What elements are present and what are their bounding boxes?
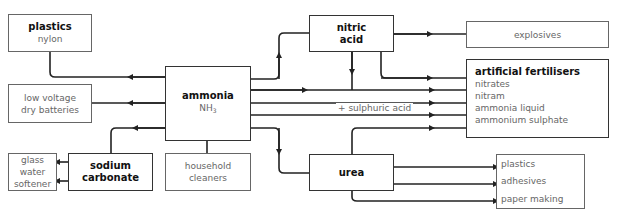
formula-main: NH	[199, 103, 213, 113]
urea-use-item: paper making	[501, 193, 563, 205]
nitric-label: nitric	[337, 22, 367, 34]
formula-subscript: 3	[213, 107, 217, 114]
ammonia-box: ammonia NH3	[165, 66, 251, 141]
urea-use-item: adhesives	[501, 175, 546, 187]
household-label: household	[185, 160, 232, 172]
fertiliser-item: ammonium sulphate	[475, 114, 568, 126]
nylon-label: nylon	[38, 33, 63, 45]
fertiliser-item: nitrates	[475, 78, 510, 90]
low-voltage-label: low voltage	[24, 92, 76, 104]
sodium-carbonate-box: sodium carbonate	[68, 153, 153, 191]
low-voltage-box: low voltage dry batteries	[8, 84, 92, 123]
softener-label: softener	[14, 178, 51, 190]
ammonia-formula: NH3	[199, 102, 216, 117]
ammonia-title: ammonia	[182, 90, 234, 102]
urea-use-item: plastics	[501, 158, 535, 170]
acid-label: acid	[340, 34, 363, 46]
carbonate-label: carbonate	[82, 172, 139, 184]
household-cleaners-box: household cleaners	[165, 153, 251, 191]
fertiliser-item: ammonia liquid	[475, 102, 545, 114]
dry-batteries-label: dry batteries	[21, 104, 79, 116]
explosives-label: explosives	[514, 29, 561, 41]
glass-water-softener-box: glass water softener	[8, 153, 57, 191]
fertilisers-box: artificial fertilisers nitrates nitram a…	[466, 59, 609, 138]
explosives-box: explosives	[466, 21, 609, 48]
water-label: water	[20, 166, 46, 178]
glass-label: glass	[21, 154, 44, 166]
urea-uses-box: plastics adhesives paper making	[496, 154, 585, 209]
nitric-acid-box: nitric acid	[309, 15, 394, 52]
fertiliser-item: nitram	[475, 90, 505, 102]
cleaners-label: cleaners	[189, 172, 227, 184]
sulphuric-acid-label: + sulphuric acid	[336, 103, 413, 113]
sodium-label: sodium	[90, 160, 131, 172]
urea-box: urea	[309, 154, 394, 191]
plastics-nylon-box: plastics nylon	[8, 14, 92, 52]
plastics-title: plastics	[28, 21, 71, 33]
fertilisers-title: artificial fertilisers	[475, 66, 580, 78]
urea-label: urea	[339, 167, 365, 179]
